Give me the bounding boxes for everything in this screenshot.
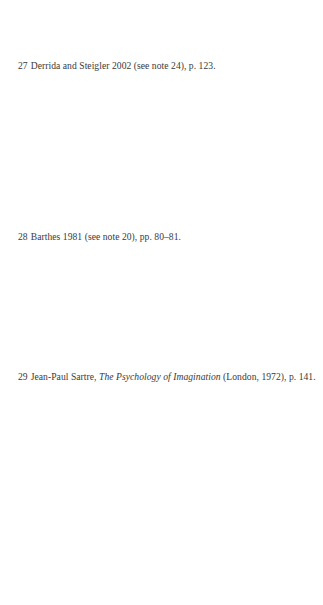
footnote-text: Barthes 1981 (see note 20), pp. 80–81.	[31, 231, 181, 242]
footnote-27: 27Derrida and Steigler 2002 (see note 24…	[18, 60, 216, 72]
footnote-number: 28	[18, 231, 28, 242]
footnote-number: 29	[18, 371, 28, 382]
footnote-text-prefix: Jean-Paul Sartre,	[31, 371, 99, 382]
footnote-number: 27	[18, 60, 28, 71]
footnote-text-suffix: (London, 1972), p. 141.	[221, 371, 316, 382]
footnote-text: Derrida and Steigler 2002 (see note 24),…	[31, 60, 216, 71]
book-title: The Psychology of Imagination	[99, 371, 221, 382]
footnote-28: 28Barthes 1981 (see note 20), pp. 80–81.	[18, 231, 181, 243]
footnote-29: 29Jean-Paul Sartre, The Psychology of Im…	[18, 371, 316, 383]
